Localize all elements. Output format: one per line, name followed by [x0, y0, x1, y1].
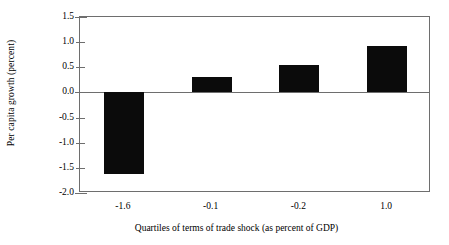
x-axis-tick-label: 1.0	[356, 200, 416, 212]
x-axis-title: Quartiles of terms of trade shock (as pe…	[0, 222, 449, 235]
y-axis-tick-label: -0.5	[30, 112, 74, 122]
bar	[279, 65, 319, 93]
bar	[104, 92, 144, 173]
y-axis-tick-mark	[76, 118, 85, 119]
y-axis-tick-mark	[75, 193, 87, 194]
y-axis-title: Per capita growth (percent)	[0, 5, 22, 181]
y-axis-tick-label: 0.0	[30, 86, 74, 96]
x-axis-tick-label: -0.1	[181, 200, 241, 212]
y-axis-tick-mark	[76, 168, 85, 169]
y-axis-tick-mark	[76, 143, 85, 144]
y-axis-tick-label: 1.5	[30, 11, 74, 21]
bar	[367, 46, 407, 92]
y-axis-tick-label: -1.5	[30, 162, 74, 172]
y-axis-tick-mark	[76, 67, 85, 68]
y-axis-tick-mark	[75, 92, 87, 93]
y-axis-tick-labels: 1.51.00.50.0-0.5-1.0-1.5-2.0	[26, 0, 74, 245]
x-axis-tick-labels: -1.6-0.1-0.21.0	[79, 200, 430, 212]
y-axis-tick-mark	[75, 17, 87, 18]
x-axis-tick-label: -0.2	[268, 200, 328, 212]
y-axis-tick-label: 1.0	[30, 36, 74, 46]
y-axis-tick-label: -1.0	[30, 137, 74, 147]
y-axis-tick-label: -2.0	[30, 187, 74, 197]
y-axis-tick-mark	[76, 42, 85, 43]
x-axis-tick-label: -1.6	[93, 200, 153, 212]
bar	[192, 77, 232, 92]
chart-figure: Per capita growth (percent) 1.51.00.50.0…	[0, 0, 449, 245]
y-axis-tick-label: 0.5	[30, 61, 74, 71]
plot-area	[79, 16, 430, 192]
